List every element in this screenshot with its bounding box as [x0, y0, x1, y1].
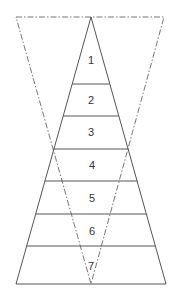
- layer-label-7: 7: [88, 260, 94, 272]
- layer-labels: 1 2 3 4 5 6 7: [88, 54, 95, 272]
- layer-label-2: 2: [88, 94, 94, 106]
- layer-label-3: 3: [88, 126, 94, 138]
- layer-label-5: 5: [89, 192, 95, 204]
- layer-label-1: 1: [88, 54, 94, 66]
- layer-label-6: 6: [89, 225, 95, 237]
- diagram-canvas: 1 2 3 4 5 6 7: [0, 0, 178, 297]
- layer-label-4: 4: [89, 159, 95, 171]
- pyramid-diagram: 1 2 3 4 5 6 7: [0, 0, 178, 297]
